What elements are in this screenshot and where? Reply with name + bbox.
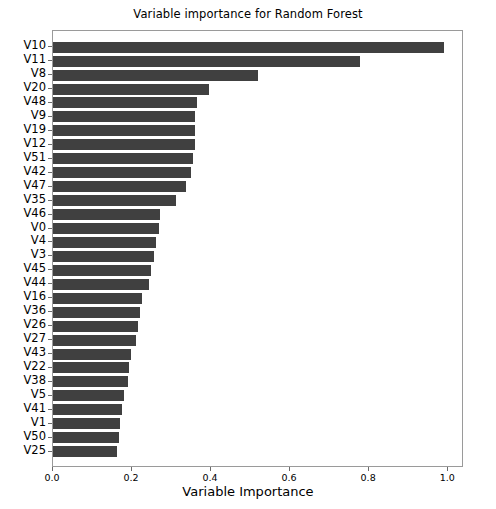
bar-v27 xyxy=(53,335,136,346)
bar-fill xyxy=(53,237,156,248)
y-tick-label-v11: V11 xyxy=(0,54,46,65)
bar-fill xyxy=(53,279,149,290)
bar-fill xyxy=(53,418,120,429)
bar-v3 xyxy=(53,251,154,262)
x-tick-label-0-4: 0.4 xyxy=(195,472,225,483)
bar-fill xyxy=(53,335,136,346)
y-tick-mark xyxy=(48,255,52,256)
y-tick-label-v45: V45 xyxy=(0,263,46,274)
bar-v41 xyxy=(53,404,122,415)
y-tick-label-v4: V4 xyxy=(0,235,46,246)
y-tick-label-v43: V43 xyxy=(0,347,46,358)
bar-fill xyxy=(53,153,193,164)
bar-fill xyxy=(53,70,258,81)
bar-fill xyxy=(53,376,128,387)
bar-v22 xyxy=(53,362,129,373)
bar-fill xyxy=(53,446,117,457)
y-tick-label-v19: V19 xyxy=(0,124,46,135)
bar-fill xyxy=(53,251,154,262)
bar-fill xyxy=(53,139,195,150)
bar-fill xyxy=(53,349,131,360)
bar-fill xyxy=(53,125,195,136)
y-tick-label-v3: V3 xyxy=(0,249,46,260)
y-tick-mark xyxy=(48,451,52,452)
bar-v10 xyxy=(53,42,444,53)
y-tick-label-v42: V42 xyxy=(0,166,46,177)
bar-v43 xyxy=(53,349,131,360)
y-tick-label-v41: V41 xyxy=(0,403,46,414)
bar-fill xyxy=(53,432,119,443)
y-tick-mark xyxy=(48,409,52,410)
x-tick-mark xyxy=(368,467,369,471)
bar-fill xyxy=(53,56,360,67)
y-tick-label-v51: V51 xyxy=(0,152,46,163)
bar-v36 xyxy=(53,307,140,318)
bar-v38 xyxy=(53,376,128,387)
y-tick-mark xyxy=(48,144,52,145)
bar-v42 xyxy=(53,167,191,178)
bar-v9 xyxy=(53,111,195,122)
bar-fill xyxy=(53,195,176,206)
x-tick-label-1-0: 1.0 xyxy=(432,472,462,483)
y-tick-label-v0: V0 xyxy=(0,222,46,233)
x-tick-mark xyxy=(447,467,448,471)
y-tick-mark xyxy=(48,200,52,201)
y-tick-mark xyxy=(48,74,52,75)
y-tick-label-v38: V38 xyxy=(0,375,46,386)
y-tick-mark xyxy=(48,102,52,103)
y-tick-label-v25: V25 xyxy=(0,445,46,456)
y-tick-label-v20: V20 xyxy=(0,82,46,93)
bar-v0 xyxy=(53,223,159,234)
bar-v50 xyxy=(53,432,119,443)
bar-v5 xyxy=(53,390,124,401)
bar-v20 xyxy=(53,84,209,95)
bar-v47 xyxy=(53,181,186,192)
y-tick-mark xyxy=(48,297,52,298)
bar-v1 xyxy=(53,418,120,429)
y-tick-label-v1: V1 xyxy=(0,417,46,428)
y-tick-mark xyxy=(48,283,52,284)
bar-fill xyxy=(53,404,122,415)
x-tick-mark xyxy=(289,467,290,471)
y-tick-label-v44: V44 xyxy=(0,277,46,288)
bar-fill xyxy=(53,42,444,53)
bar-fill xyxy=(53,97,197,108)
bar-v25 xyxy=(53,446,117,457)
x-tick-mark xyxy=(131,467,132,471)
bar-v35 xyxy=(53,195,176,206)
y-tick-label-v48: V48 xyxy=(0,96,46,107)
bar-fill xyxy=(53,307,140,318)
chart-figure: Variable importance for Random Forest V1… xyxy=(0,0,496,509)
bar-fill xyxy=(53,265,151,276)
y-tick-mark xyxy=(48,339,52,340)
bar-fill xyxy=(53,181,186,192)
bar-fill xyxy=(53,321,138,332)
x-tick-label-0-2: 0.2 xyxy=(116,472,146,483)
y-tick-mark xyxy=(48,269,52,270)
y-tick-mark xyxy=(48,130,52,131)
bar-v48 xyxy=(53,97,197,108)
y-tick-mark xyxy=(48,88,52,89)
y-tick-label-v12: V12 xyxy=(0,138,46,149)
y-tick-mark xyxy=(48,325,52,326)
y-tick-label-v36: V36 xyxy=(0,305,46,316)
y-tick-label-v26: V26 xyxy=(0,319,46,330)
y-tick-label-v5: V5 xyxy=(0,389,46,400)
y-tick-label-v27: V27 xyxy=(0,333,46,344)
bar-fill xyxy=(53,293,142,304)
bar-v12 xyxy=(53,139,195,150)
bar-v4 xyxy=(53,237,156,248)
x-tick-label-0-0: 0.0 xyxy=(37,472,67,483)
y-tick-mark xyxy=(48,367,52,368)
y-tick-label-v8: V8 xyxy=(0,68,46,79)
y-tick-mark xyxy=(48,172,52,173)
bar-fill xyxy=(53,111,195,122)
y-tick-mark xyxy=(48,46,52,47)
y-tick-label-v35: V35 xyxy=(0,194,46,205)
bar-v46 xyxy=(53,209,160,220)
y-tick-mark xyxy=(48,60,52,61)
bar-fill xyxy=(53,209,160,220)
bar-fill xyxy=(53,390,124,401)
y-tick-mark xyxy=(48,228,52,229)
bar-fill xyxy=(53,167,191,178)
